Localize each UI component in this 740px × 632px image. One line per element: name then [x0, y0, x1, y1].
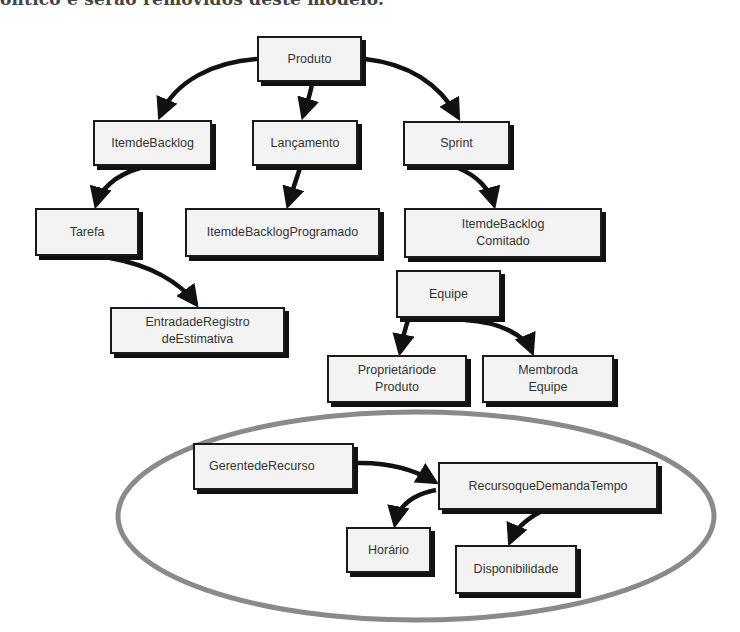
node-disponibilidade: Disponibilidade	[455, 545, 577, 594]
node-recurso-demanda-tempo: RecursoqueDemandaTempo	[438, 462, 658, 510]
node-label: ItemdeBacklog	[111, 135, 194, 152]
edge-produto-itembacklog	[160, 59, 257, 116]
edge-produto-sprint	[365, 59, 458, 117]
node-item-backlog-programado: ItemdeBacklogProgramado	[185, 208, 380, 257]
node-proprietario-produto: Proprietáriode Produto	[327, 355, 467, 403]
edge-gerente-recurso	[356, 463, 435, 482]
node-equipe: Equipe	[396, 270, 501, 318]
node-item-backlog-comitado: ItemdeBacklog Comitado	[404, 208, 602, 258]
edge-produto-lancamento	[303, 84, 312, 116]
node-membro-equipe: Membroda Equipe	[482, 355, 614, 403]
edge-itembacklog-tarefa	[96, 168, 140, 205]
edge-sprint-comitado	[458, 168, 494, 205]
node-label: Sprint	[440, 135, 473, 152]
node-label: Disponibilidade	[474, 561, 559, 578]
node-label: Membroda Equipe	[518, 362, 578, 396]
node-gerente-recurso: GerentedeRecurso	[193, 443, 354, 490]
edge-recurso-disponibilidade	[510, 512, 540, 542]
node-lancamento: Lançamento	[252, 120, 358, 166]
node-label: Tarefa	[70, 224, 105, 241]
edge-tarefa-entrada	[110, 258, 196, 304]
node-label: Proprietáriode Produto	[358, 362, 437, 396]
node-label: Equipe	[429, 286, 468, 303]
node-label: ItemdeBacklogProgramado	[207, 224, 358, 241]
node-label: GerentedeRecurso	[209, 458, 315, 475]
edge-recurso-horario	[395, 490, 436, 524]
node-label: Lançamento	[271, 135, 340, 152]
edge-lancamento-programado	[288, 168, 300, 205]
node-label: Horário	[368, 542, 409, 559]
node-item-backlog: ItemdeBacklog	[93, 120, 212, 166]
node-label: ItemdeBacklog Comitado	[462, 216, 545, 250]
node-label: RecursoqueDemandaTempo	[468, 478, 627, 495]
node-sprint: Sprint	[403, 121, 510, 166]
node-label: EntradadeRegistro deEstimativa	[145, 314, 249, 348]
node-produto: Produto	[257, 36, 362, 82]
node-label: Produto	[288, 51, 332, 68]
node-horario: Horário	[346, 527, 431, 573]
edge-equipe-membro	[465, 320, 532, 352]
edge-equipe-proprietario	[400, 320, 408, 352]
node-entrada-registro: EntradadeRegistro deEstimativa	[110, 307, 285, 354]
node-tarefa: Tarefa	[35, 208, 139, 256]
